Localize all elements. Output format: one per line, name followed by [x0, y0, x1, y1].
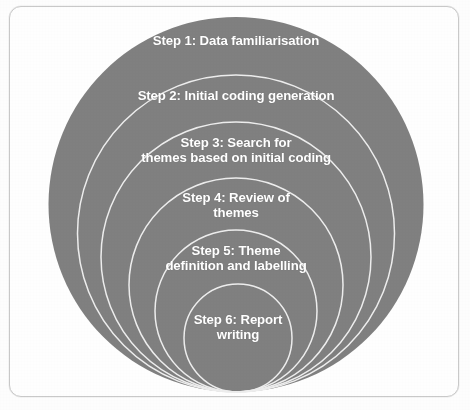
circle-step-1: [49, 17, 424, 392]
nested-circles-diagram: [0, 0, 470, 410]
figure-root: Step 1: Data familiarisation Step 2: Ini…: [0, 0, 470, 410]
